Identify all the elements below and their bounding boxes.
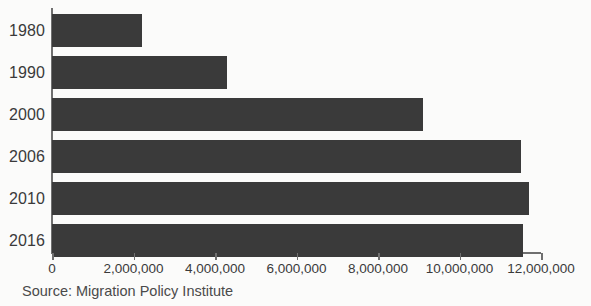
y-axis-tick-label: 2000 <box>0 98 45 131</box>
bar-row <box>52 140 541 173</box>
bar-row <box>52 98 541 131</box>
x-axis-tick-label: 4,000,000 <box>185 261 245 276</box>
x-axis-tick-label: 12,000,000 <box>507 261 575 276</box>
x-axis-tick-mark <box>52 253 54 260</box>
x-axis-tick-label: 0 <box>48 261 56 276</box>
y-axis-tick-label: 2010 <box>0 182 45 215</box>
source-note: Source: Migration Policy Institute <box>22 283 233 299</box>
x-axis-tick-mark <box>541 253 543 260</box>
y-axis-tick-label: 2016 <box>0 224 45 257</box>
bar <box>52 182 529 215</box>
x-axis-tick-mark <box>460 253 462 260</box>
bar <box>52 140 521 173</box>
x-axis-tick-mark <box>134 253 136 260</box>
x-axis-tick-mark <box>215 253 217 260</box>
bar <box>52 56 227 89</box>
bar-row <box>52 56 541 89</box>
bar-row <box>52 182 541 215</box>
y-axis-tick-label: 2006 <box>0 140 45 173</box>
bar <box>52 98 423 131</box>
x-axis-tick-mark <box>378 253 380 260</box>
y-axis-tick-label: 1990 <box>0 56 45 89</box>
x-axis-tick-label: 10,000,000 <box>426 261 494 276</box>
x-axis-tick-mark <box>297 253 299 260</box>
bar <box>52 224 523 257</box>
y-axis-tick-label: 1980 <box>0 14 45 47</box>
bar-chart: 198019902000200620102016 02,000,0004,000… <box>0 0 591 306</box>
bar-row <box>52 14 541 47</box>
bar <box>52 14 142 47</box>
x-axis-tick-label: 8,000,000 <box>348 261 408 276</box>
x-axis-tick-label: 2,000,000 <box>103 261 163 276</box>
x-axis-tick-label: 6,000,000 <box>266 261 326 276</box>
